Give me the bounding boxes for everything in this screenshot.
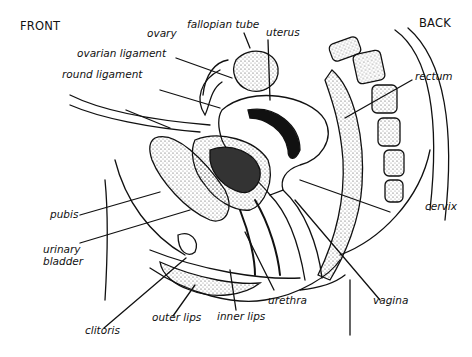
label-urethra: urethra (268, 294, 307, 306)
label-uterus: uterus (266, 26, 300, 38)
label-ovary: ovary (147, 27, 177, 39)
anatomy-diagram: FRONT BACK ovary fallopian tube uterus o… (0, 0, 472, 357)
label-vagina: vagina (373, 294, 408, 306)
label-fallopian-tube: fallopian tube (187, 18, 259, 30)
label-pubis: pubis (50, 208, 78, 220)
label-rectum: rectum (415, 70, 453, 82)
front-label: FRONT (20, 19, 60, 33)
label-cervix: cervix (425, 200, 457, 212)
label-round-ligament: round ligament (62, 68, 142, 80)
label-ovarian-ligament: ovarian ligament (77, 47, 166, 59)
label-urinary-bladder-line1: urinary (43, 243, 81, 255)
ovary-shape (234, 51, 279, 91)
back-label: BACK (419, 16, 451, 30)
label-outer-lips: outer lips (152, 311, 201, 323)
label-clitoris: clitoris (85, 324, 120, 336)
label-inner-lips: inner lips (217, 310, 265, 322)
label-urinary-bladder-line2: bladder (43, 255, 83, 267)
